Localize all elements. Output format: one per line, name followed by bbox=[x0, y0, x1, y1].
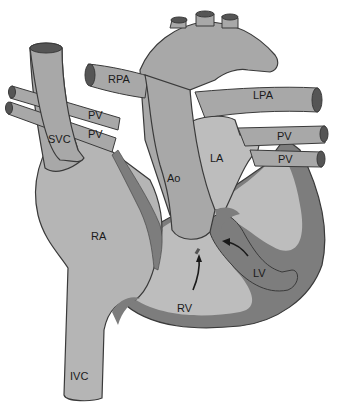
heart-diagram: RPA LPA PV PV SVC PV PV LA Ao RA LV RV I… bbox=[0, 0, 339, 419]
svc-lumen-front bbox=[30, 43, 62, 53]
label-pv-left-upper: PV bbox=[277, 130, 292, 142]
label-lpa: LPA bbox=[253, 89, 274, 101]
label-rpa: RPA bbox=[108, 73, 130, 85]
lpa-lumen bbox=[312, 88, 322, 112]
label-ra: RA bbox=[91, 230, 107, 242]
left-pv-upper-lumen bbox=[320, 126, 328, 142]
label-pv-right-lower: PV bbox=[88, 128, 103, 140]
right-pv-upper-lumen bbox=[9, 86, 16, 98]
arch-branch-3-lumen bbox=[222, 14, 238, 20]
rpa-lumen bbox=[85, 64, 95, 86]
right-pv-lower-lumen bbox=[6, 102, 13, 114]
label-lv: LV bbox=[253, 267, 266, 279]
left-pv-lower-lumen bbox=[317, 151, 325, 167]
label-svc: SVC bbox=[48, 133, 71, 145]
label-la: LA bbox=[210, 152, 224, 164]
label-rv: RV bbox=[177, 302, 193, 314]
arch-branch-1-lumen bbox=[171, 17, 187, 23]
label-ao: Ao bbox=[167, 172, 180, 184]
label-ivc: IVC bbox=[70, 370, 88, 382]
label-pv-right-upper: PV bbox=[88, 109, 103, 121]
arch-branch-2-lumen bbox=[196, 11, 214, 17]
label-pv-left-lower: PV bbox=[278, 153, 293, 165]
